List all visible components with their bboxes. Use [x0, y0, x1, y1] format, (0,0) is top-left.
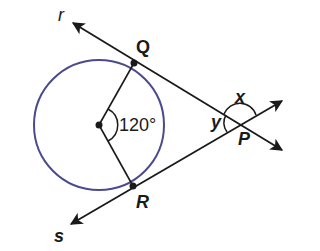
central-angle-arc — [108, 109, 118, 141]
center-point — [96, 122, 103, 129]
label-p: P — [238, 130, 250, 148]
angle-y-arc — [224, 115, 227, 132]
tangent-line-r — [73, 23, 282, 150]
point-q — [131, 60, 138, 67]
label-y: y — [211, 113, 221, 131]
point-r — [130, 183, 137, 190]
label-r-point: R — [136, 193, 149, 211]
label-q: Q — [136, 38, 150, 56]
label-r: r — [58, 6, 64, 24]
label-x: x — [235, 88, 245, 106]
label-central-angle: 120° — [119, 116, 156, 134]
label-s: s — [54, 227, 64, 245]
